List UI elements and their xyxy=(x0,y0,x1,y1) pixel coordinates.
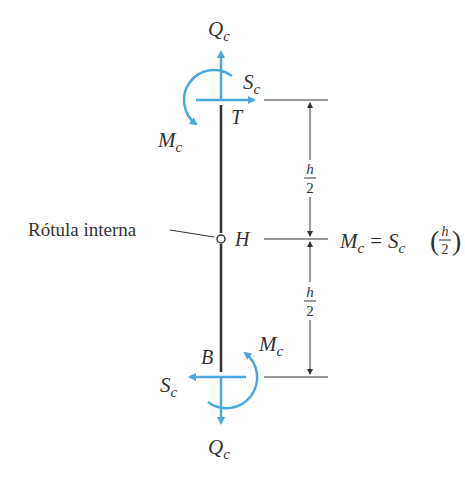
top-shear-label: Sc xyxy=(243,70,261,97)
top-moment-label: Mc xyxy=(157,128,183,155)
bottom-point-label: B xyxy=(201,346,213,368)
hinge-leader-line xyxy=(170,230,214,237)
top-moment-arrow-icon xyxy=(184,70,232,124)
bottom-moment-arrow-icon xyxy=(208,353,257,408)
bottom-axial-label: Qc xyxy=(208,435,230,462)
dim-lower-num: h xyxy=(306,284,314,300)
bottom-shear-label: Sc xyxy=(160,373,178,400)
equation-frac-num: h xyxy=(442,224,449,239)
dim-upper-num: h xyxy=(306,161,314,177)
equation-frac-den: 2 xyxy=(442,242,449,257)
equation-paren-open: ( xyxy=(430,225,439,256)
dim-upper-den: 2 xyxy=(306,180,314,196)
top-axial-label: Qc xyxy=(208,17,230,44)
hinge-text-label: Rótula interna xyxy=(28,219,137,240)
top-point-label: T xyxy=(231,106,244,128)
column-free-body-diagram: h 2 h 2 Qc Sc Mc T Rótula interna H Mc=S… xyxy=(0,0,465,478)
internal-hinge-icon xyxy=(217,235,225,243)
hinge-point-label: H xyxy=(234,228,251,250)
dim-lower-den: 2 xyxy=(306,303,314,319)
equation-paren-close: ) xyxy=(452,225,461,256)
bottom-moment-label: Mc xyxy=(258,332,284,359)
moment-equation: Mc=Sc xyxy=(339,229,406,256)
